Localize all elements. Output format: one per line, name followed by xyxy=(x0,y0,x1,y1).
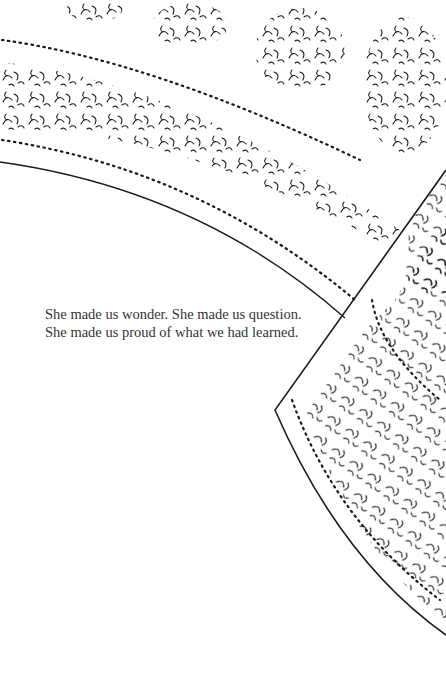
paisley-fabric-illustration xyxy=(0,0,446,692)
book-page: She made us wonder. She made us question… xyxy=(0,0,446,692)
caption-text: She made us wonder. She made us question… xyxy=(45,305,345,341)
caption-line-2: She made us proud of what we had learned… xyxy=(45,323,345,341)
caption-line-1: She made us wonder. She made us question… xyxy=(45,305,345,323)
